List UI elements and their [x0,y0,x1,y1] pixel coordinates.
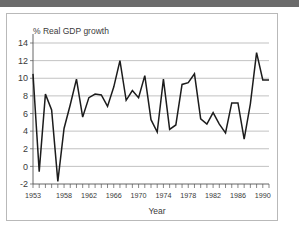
y-tick-label--2: -2 [20,179,28,189]
y-tick-label-10: 10 [18,73,28,83]
x-axis-tick-labels: 1953195819621966197019741978198219861990 [25,191,271,200]
y-tick-label-4: 4 [23,126,28,136]
gdp-growth-line-chart: -202468101214 19531958196219661970197419… [7,14,277,220]
gridlines-group [33,43,269,166]
chart-figure-frame: -202468101214 19531958196219661970197419… [6,13,278,221]
y-tick-label-0: 0 [23,162,28,172]
y-tick-label-14: 14 [18,38,28,48]
y-tick-label-6: 6 [23,109,28,119]
x-tick-label-1958: 1958 [56,191,72,200]
y-tick-label-12: 12 [18,56,28,66]
x-tick-label-1986: 1986 [230,191,246,200]
x-tick-label-1978: 1978 [180,191,196,200]
top-decorative-band [0,0,299,7]
gdp-growth-data-line [33,53,269,182]
x-tick-label-1966: 1966 [106,191,122,200]
x-tick-label-1962: 1962 [81,191,97,200]
x-tick-label-1974: 1974 [155,191,171,200]
chart-title: % Real GDP growth [33,26,109,36]
x-tick-label-1982: 1982 [205,191,221,200]
x-tick-label-1953: 1953 [25,191,41,200]
x-tick-label-1970: 1970 [131,191,147,200]
x-axis-minor-ticks [33,184,269,188]
y-tick-label-2: 2 [23,144,28,154]
x-tick-label-1990: 1990 [255,191,271,200]
y-tick-label-8: 8 [23,91,28,101]
y-axis-tick-labels: -202468101214 [18,38,28,189]
x-axis-title: Year [148,206,165,216]
